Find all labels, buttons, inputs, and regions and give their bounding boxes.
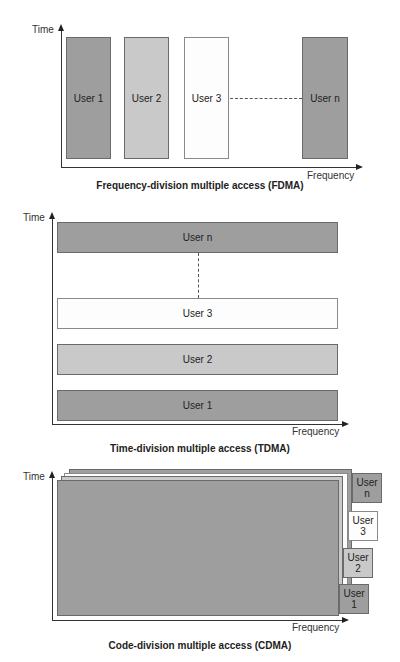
fdma-time-axis-label: Time [32, 24, 54, 35]
block-label: User 3 [192, 93, 221, 104]
fdma-x-axis [61, 167, 356, 168]
cdma-y-arrow-icon [49, 471, 55, 478]
tdma-ellipsis-dashed-line [198, 253, 199, 298]
block-label: User 2 [132, 93, 161, 104]
cdma-time-axis-label: Time [23, 471, 45, 482]
block-label: User 1 [74, 93, 103, 104]
fdma-ellipsis-dashed-line [230, 98, 302, 99]
fdma-block-user-1: User 1 [66, 37, 111, 159]
block-label: User 1 [183, 400, 212, 411]
cdma-layer-user-1 [57, 480, 339, 616]
tab-label: Usern [356, 477, 377, 499]
tdma-caption: Time-division multiple access (TDMA) [0, 443, 400, 454]
fdma-y-arrow-icon [58, 24, 64, 31]
tdma-frequency-axis-label: Frequency [292, 426, 339, 437]
block-label: User 3 [183, 308, 212, 319]
block-label: User n [183, 232, 212, 243]
block-label: User 2 [183, 354, 212, 365]
cdma-caption: Code-division multiple access (CDMA) [0, 640, 400, 651]
tdma-y-axis [52, 217, 53, 425]
tdma-x-arrow-icon [342, 421, 349, 427]
fdma-x-arrow-icon [356, 164, 363, 170]
fdma-block-user-3: User 3 [184, 37, 229, 159]
cdma-y-axis [52, 476, 53, 621]
tdma-x-axis [52, 424, 342, 425]
block-label: User n [310, 93, 339, 104]
tdma-y-arrow-icon [49, 212, 55, 219]
tab-label: User1 [343, 588, 364, 610]
cdma-frequency-axis-label: Frequency [292, 622, 339, 633]
tdma-block-user-2: User 2 [57, 344, 338, 375]
cdma-tab-user-n: Usern [352, 473, 382, 503]
fdma-caption: Frequency-division multiple access (FDMA… [0, 180, 400, 191]
fdma-block-user-2: User 2 [124, 37, 169, 159]
cdma-tab-user-3: User3 [348, 511, 378, 541]
cdma-x-axis [52, 620, 342, 621]
tab-label: User2 [347, 552, 368, 574]
tdma-block-user-n: User n [57, 222, 338, 253]
cdma-x-arrow-icon [342, 617, 349, 623]
fdma-block-user-n: User n [302, 37, 348, 159]
tab-label: User3 [352, 515, 373, 537]
tdma-block-user-1: User 1 [57, 390, 338, 421]
fdma-y-axis [61, 29, 62, 168]
tdma-block-user-3: User 3 [57, 298, 338, 329]
cdma-tab-user-1: User1 [339, 584, 369, 614]
cdma-tab-user-2: User2 [343, 548, 373, 578]
tdma-time-axis-label: Time [23, 212, 45, 223]
